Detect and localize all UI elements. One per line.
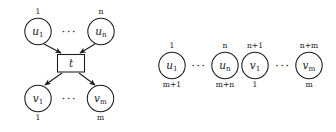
right-diagram-group: u1 1 m+1 ··· un n m+n v1 n+1 1 ··· (159, 41, 322, 89)
place-top-index-un: n (99, 7, 104, 16)
ellipsis-top-row: ··· (62, 26, 77, 39)
diagram-svg: u1 1 ··· un n t v1 1 ··· (0, 0, 336, 132)
seq-place-top-index-u1: 1 (170, 41, 175, 50)
seq-place-bottom-index-un: m+n (216, 80, 235, 89)
seq-place-bottom-index-u1: m+1 (163, 80, 181, 89)
place-bottom-index-v1: 1 (36, 113, 41, 122)
edge-t-to-v1 (45, 73, 62, 85)
seq-place-top-index-un: n (223, 41, 228, 50)
edge-t-to-vm (79, 73, 95, 85)
place-bottom-index-vm: m (97, 113, 104, 122)
left-diagram-group: u1 1 ··· un n t v1 1 ··· (25, 7, 114, 122)
seq-place-top-index-vm: n+m (300, 41, 318, 50)
seq-place-top-index-v1: n+1 (247, 41, 263, 50)
ellipsis-seq-v: ··· (275, 60, 290, 73)
edge-un-to-t (80, 44, 95, 53)
ellipsis-bottom-row: ··· (62, 93, 77, 106)
ellipsis-seq-u: ··· (191, 60, 206, 73)
edge-u1-to-t (44, 44, 61, 53)
place-top-index-u1: 1 (36, 7, 41, 16)
seq-place-bottom-index-vm: m (305, 80, 312, 89)
seq-place-bottom-index-v1: 1 (253, 80, 258, 89)
figure-canvas: u1 1 ··· un n t v1 1 ··· (0, 0, 336, 132)
